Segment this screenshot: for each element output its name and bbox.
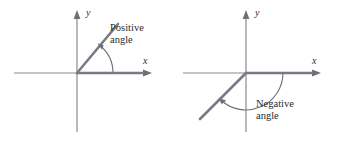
x-axis-label: x [312,56,316,66]
positive-angle-diagram: y x Positive angle [0,0,170,142]
positive-angle-label-line2: angle [110,34,133,46]
positive-angle-label-line1: Positive [110,22,144,34]
negative-angle-diagram: y x Negative angle [169,0,339,142]
positive-angle-graphic [0,0,170,142]
negative-angle-label-line1: Negative [256,98,294,110]
terminal-side [200,73,246,119]
y-axis-label: y [255,8,259,18]
negative-angle-label-line2: angle [256,110,279,122]
angles-figure: y x Positive angle [0,0,339,142]
y-axis-label: y [86,8,90,18]
x-axis-label: x [143,56,147,66]
negative-angle-graphic [169,0,339,142]
y-axis [243,10,250,132]
